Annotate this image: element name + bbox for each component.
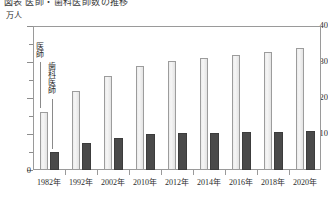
bar-dentist [114, 138, 123, 170]
x-axis-separator [97, 170, 98, 175]
x-axis-label: 2010年 [129, 176, 161, 187]
bar-dentist [50, 152, 59, 170]
bar-dentist [242, 132, 251, 170]
bar-doctor [40, 112, 49, 170]
bar-series-container [33, 26, 321, 170]
bar-doctor [264, 52, 273, 170]
legend-label-doctor: 医師 [34, 42, 42, 58]
bar-dentist [306, 131, 315, 170]
x-axis-separator [193, 170, 194, 175]
bar-group [225, 26, 257, 170]
x-axis-label: 1992年 [65, 176, 97, 187]
chart-figure: 図表 医師・歯科医師数の推移 万人 10203040 1982年1992年200… [0, 0, 328, 212]
bar-group [161, 26, 193, 170]
bar-doctor [104, 76, 113, 170]
legend-leader-line-dentist [52, 99, 53, 149]
chart-title: 図表 医師・歯科医師数の推移 [4, 0, 129, 8]
x-axis-separator [129, 170, 130, 175]
bar-group [129, 26, 161, 170]
bar-group [65, 26, 97, 170]
x-axis-separator [161, 170, 162, 175]
bar-dentist [178, 133, 187, 170]
bar-dentist [274, 132, 283, 170]
bar-group [193, 26, 225, 170]
bar-doctor [168, 61, 177, 170]
y-axis-unit-label: 万人 [6, 9, 22, 20]
bar-dentist [82, 143, 91, 170]
bar-doctor [232, 55, 241, 170]
bar-doctor [72, 91, 81, 170]
x-axis-separator [257, 170, 258, 175]
x-axis-label: 2018年 [257, 176, 289, 187]
bar-doctor [136, 66, 145, 170]
legend-label-dentist: 歯科医師 [46, 62, 54, 94]
bar-doctor [296, 48, 305, 170]
x-axis-separator [289, 170, 290, 175]
legend-leader-line-doctor [40, 62, 41, 108]
x-axis-separator [225, 170, 226, 175]
y-axis-zero-label: 0 [20, 165, 31, 175]
x-axis-label: 2012年 [161, 176, 193, 187]
x-axis-separator [65, 170, 66, 175]
bar-dentist [146, 134, 155, 170]
x-axis-label: 2002年 [97, 176, 129, 187]
bar-group [257, 26, 289, 170]
bar-group [97, 26, 129, 170]
x-axis-label: 2020年 [289, 176, 321, 187]
bar-dentist [210, 133, 219, 170]
bar-doctor [200, 58, 209, 170]
bar-group [289, 26, 321, 170]
x-axis-label: 2016年 [225, 176, 257, 187]
x-axis-label: 1982年 [33, 176, 65, 187]
x-axis-label: 2014年 [193, 176, 225, 187]
